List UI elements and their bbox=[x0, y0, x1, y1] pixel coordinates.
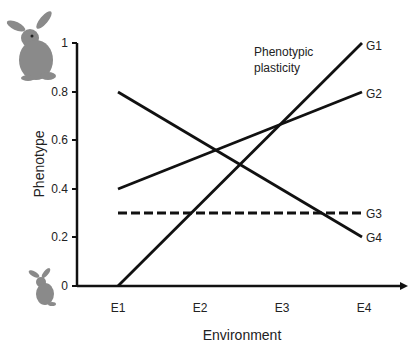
y-tick-label: 1 bbox=[61, 36, 68, 50]
y-tick-label: 0.4 bbox=[51, 182, 68, 196]
x-axis-arrow-icon bbox=[400, 282, 408, 290]
series-label-g2: G2 bbox=[366, 87, 382, 101]
large-rabbit-icon bbox=[5, 9, 56, 81]
series-label-g4: G4 bbox=[366, 231, 382, 245]
y-tick-label: 0 bbox=[61, 279, 68, 293]
y-axis-label: Phenotype bbox=[31, 130, 47, 197]
annotation-line2: plasticity bbox=[254, 61, 300, 75]
series-g2-line bbox=[118, 92, 362, 189]
x-tick-label: E3 bbox=[275, 301, 290, 315]
small-rabbit-icon bbox=[28, 267, 56, 306]
y-tick-label: 0.2 bbox=[51, 230, 68, 244]
series-label-g1: G1 bbox=[366, 39, 382, 53]
annotation-line1: Phenotypic bbox=[254, 45, 313, 59]
x-axis-label: Environment bbox=[203, 327, 282, 343]
y-tick-label: 0.8 bbox=[51, 85, 68, 99]
series-label-g3: G3 bbox=[366, 207, 382, 221]
x-tick-label: E2 bbox=[193, 301, 208, 315]
series-g4-line bbox=[118, 92, 362, 237]
x-tick-label: E1 bbox=[111, 301, 126, 315]
y-tick-label: 0.6 bbox=[51, 133, 68, 147]
x-tick-label: E4 bbox=[357, 301, 372, 315]
chart: 0 0.2 0.4 0.6 0.8 1 E1 E2 E3 E4 Environm… bbox=[0, 0, 412, 346]
